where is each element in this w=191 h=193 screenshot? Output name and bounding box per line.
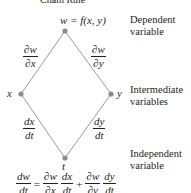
equals-sign: = (34, 178, 40, 190)
node-label-w: w = f(x, y) (60, 14, 106, 26)
node-y (108, 91, 113, 96)
node-label-y: y (117, 87, 122, 99)
edge-label-dy-dt: dydt (93, 116, 105, 141)
label-intermediate-variables: Intermediate variables (130, 84, 183, 108)
label-dependent-variable: Dependent variable (130, 14, 175, 38)
plus-sign: + (76, 178, 82, 190)
formula-lhs: dwdt (16, 171, 31, 193)
node-w (62, 28, 67, 33)
label-independent-variable: Independent variable (130, 148, 182, 172)
edge-label-dw-dx: ∂w∂x (23, 44, 38, 69)
edge-label-dx-dt: dxdt (23, 116, 35, 141)
node-label-x: x (7, 87, 12, 99)
chain-rule-formula: dwdt = ∂w∂x dxdt + ∂w∂y dydt (16, 171, 116, 193)
node-x (18, 91, 23, 96)
edge-label-dw-dy: ∂w∂y (91, 44, 106, 69)
